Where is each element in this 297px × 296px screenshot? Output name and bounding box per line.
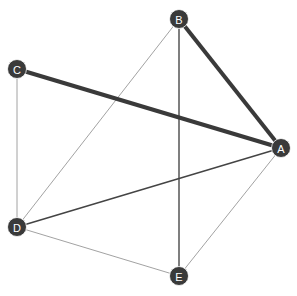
edge-a-e — [179, 148, 281, 276]
node-a: A — [272, 139, 291, 158]
node-e: E — [170, 267, 189, 286]
node-label: B — [175, 14, 182, 26]
node-c: C — [8, 60, 27, 79]
node-label: D — [13, 222, 21, 234]
node-label: E — [175, 271, 182, 283]
node-label: A — [277, 143, 285, 155]
edges-layer — [17, 19, 281, 276]
node-b: B — [170, 10, 189, 29]
edge-b-a — [179, 19, 281, 148]
nodes-layer: ABCDE — [8, 10, 291, 286]
network-graph: ABCDE — [0, 0, 297, 296]
edge-c-a — [17, 69, 281, 148]
edge-b-d — [17, 19, 179, 227]
edge-d-a — [17, 148, 281, 227]
node-d: D — [8, 218, 27, 237]
node-label: C — [13, 64, 21, 76]
edge-d-e — [17, 227, 179, 276]
